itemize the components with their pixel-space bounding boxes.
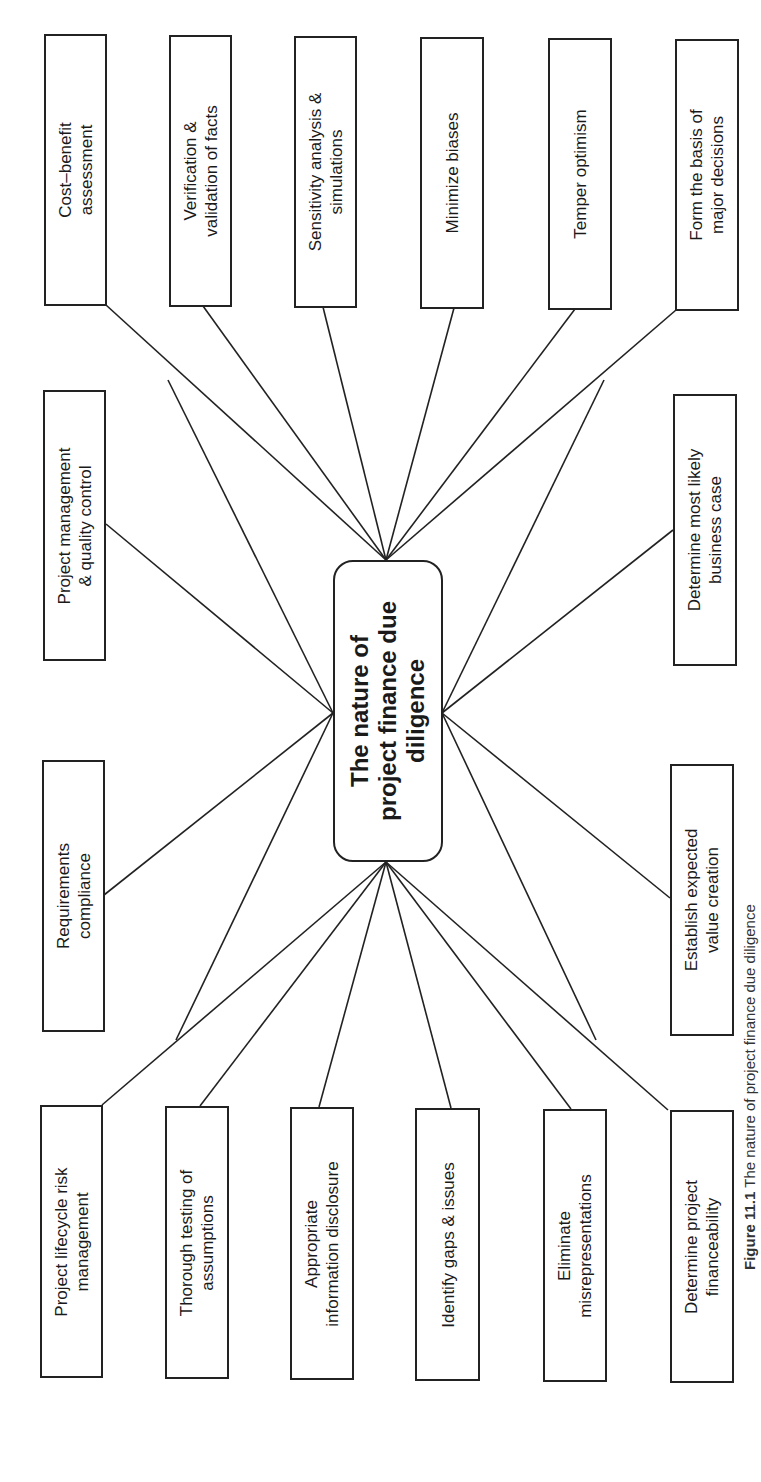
node-gaps-issues: Identify gaps & issues	[415, 1108, 480, 1381]
node-label-line: Appropriate	[301, 1161, 322, 1326]
node-label-line: Establish expected	[681, 829, 702, 972]
central-topic-node: The nature of project finance due dilige…	[333, 560, 443, 862]
node-label-line: misrepresentations	[575, 1174, 596, 1318]
node-label-line: Project lifecycle risk	[51, 1167, 72, 1316]
node-label-line: Project management	[54, 447, 75, 604]
node-label-line: Verification &	[180, 105, 201, 236]
node-label-line: information disclosure	[322, 1161, 343, 1326]
node-financeability: Determine projectfinanceability	[670, 1110, 734, 1383]
node-label-line: Cost–benefit	[55, 122, 76, 217]
node-label-line: Form the basis of	[686, 109, 707, 240]
node-label-line: validation of facts	[201, 105, 222, 236]
node-label-line: simulations	[326, 93, 347, 252]
node-cost-benefit: Cost–benefitassessment	[44, 34, 107, 306]
node-lifecycle-risk: Project lifecycle riskmanagement	[40, 1105, 103, 1378]
node-label-line: major decisions	[707, 109, 728, 240]
due-diligence-diagram: The nature of project finance due dilige…	[0, 0, 761, 1482]
node-label-line: financeability	[702, 1179, 723, 1313]
node-label-line: business case	[705, 449, 726, 612]
node-label-line: Determine project	[681, 1179, 702, 1313]
figure-caption-label: Figure 11.1	[741, 1192, 758, 1270]
node-label-line: Requirements	[53, 843, 74, 949]
node-form-basis: Form the basis ofmajor decisions	[675, 39, 739, 311]
node-label-line: Eliminate	[554, 1174, 575, 1318]
node-label-line: assumptions	[197, 1169, 218, 1315]
node-label-line: Minimize biases	[442, 113, 463, 234]
node-info-disclosure: Appropriateinformation disclosure	[290, 1107, 354, 1380]
node-expected-value: Establish expectedvalue creation	[670, 764, 734, 1036]
node-label-line: Identify gaps & issues	[437, 1162, 458, 1327]
node-label-line: assessment	[76, 122, 97, 217]
node-temper-optimism: Temper optimism	[548, 38, 612, 310]
node-label-line: Sensitivity analysis &	[305, 93, 326, 252]
node-label-line: & quality control	[75, 447, 96, 604]
central-topic-label: The nature of project finance due dilige…	[346, 601, 430, 821]
central-topic-line-3: diligence	[402, 601, 430, 821]
node-label-line: Determine most likely	[684, 449, 705, 612]
central-topic-line-1: The nature of	[346, 601, 374, 821]
figure-caption-text: The nature of project finance due dilige…	[741, 904, 758, 1191]
node-project-management: Project management& quality control	[43, 390, 106, 661]
node-minimize-biases: Minimize biases	[420, 37, 484, 309]
node-requirements: Requirementscompliance	[42, 760, 105, 1032]
node-verification: Verification &validation of facts	[169, 35, 232, 307]
node-testing-assumptions: Thorough testing ofassumptions	[165, 1106, 229, 1379]
central-topic-line-2: project finance due	[374, 601, 402, 821]
node-label-line: management	[72, 1167, 93, 1316]
node-most-likely-case: Determine most likelybusiness case	[673, 394, 737, 666]
node-misrepresentations: Eliminatemisrepresentations	[543, 1109, 607, 1382]
node-label-line: Thorough testing of	[176, 1169, 197, 1315]
node-label-line: compliance	[74, 843, 95, 949]
figure-caption: Figure 11.1 The nature of project financ…	[735, 1060, 761, 1480]
node-label-line: Temper optimism	[570, 109, 591, 238]
node-sensitivity: Sensitivity analysis &simulations	[294, 36, 357, 308]
node-label-line: value creation	[702, 829, 723, 972]
